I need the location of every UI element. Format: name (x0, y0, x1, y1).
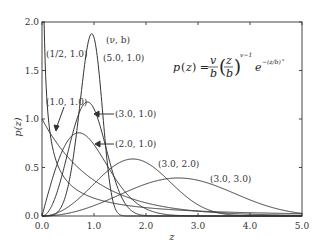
y-tick-label: 1.5 (25, 66, 40, 76)
weibull-chart: 0.01.02.03.04.05.00.00.51.01.52.0 p(z) z… (0, 0, 320, 252)
label-half-1: (1/2, 1.0) (46, 49, 88, 59)
svg-text:): ) (234, 56, 241, 77)
svg-text:v: v (210, 54, 217, 67)
label-3-1: (3.0, 1.0) (115, 109, 156, 119)
svg-text:(: ( (181, 61, 185, 74)
y-tick-label: 0.5 (25, 163, 40, 173)
label-3-3: (3.0, 3.0) (210, 174, 251, 184)
svg-text:z: z (225, 54, 232, 67)
curve-2-0-1-0 (42, 133, 302, 216)
svg-text:v: v (282, 57, 285, 62)
y-tick-label: 2.0 (25, 17, 40, 27)
x-tick-label: 0.0 (35, 221, 50, 231)
x-tick-label: 5.0 (295, 221, 310, 231)
y-axis-label: p(z) (12, 117, 23, 137)
svg-text:v−1: v−1 (240, 51, 252, 58)
x-tick-label: 4.0 (243, 221, 258, 231)
x-tick-label: 1.0 (87, 221, 102, 231)
svg-text:e: e (255, 61, 262, 74)
svg-text:p: p (173, 61, 180, 74)
x-tick-label: 2.0 (139, 221, 154, 231)
y-tick-label: 1.0 (25, 114, 40, 124)
label-2-1: (2.0, 1.0) (115, 139, 156, 149)
label-5-1: (5.0, 1.0) (103, 53, 144, 63)
svg-text:b: b (210, 67, 217, 80)
svg-text:(: ( (219, 56, 226, 77)
x-axis-label: z (168, 231, 175, 242)
svg-text:) =: ) = (192, 61, 209, 74)
formula: p ( z ) = v b ( z b ) v−1 e −(z/b) v (173, 51, 285, 80)
y-tick-label: 0.0 (25, 211, 40, 221)
x-tick-label: 3.0 (191, 221, 206, 231)
label-1-1: (1.0, 1.0) (46, 97, 87, 107)
svg-text:b: b (226, 67, 233, 80)
label-3-2: (3.0, 2.0) (158, 159, 199, 169)
svg-text:z: z (185, 61, 192, 74)
legend-header: (ν, b) (106, 35, 130, 45)
svg-text:−(z/b): −(z/b) (262, 58, 281, 65)
